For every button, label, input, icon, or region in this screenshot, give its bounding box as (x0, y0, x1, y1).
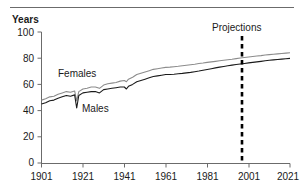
y-tick-label-0: 0 (8, 157, 34, 168)
chart-figure: Years 100 80 60 40 20 0 190 (0, 0, 304, 193)
y-tick-label-40: 40 (8, 105, 34, 116)
x-tick-label-1921: 1921 (72, 171, 94, 182)
x-tick-label-2001: 2001 (238, 171, 260, 182)
y-tick-label-100: 100 (8, 27, 34, 38)
series-label-males: Males (82, 103, 109, 114)
y-tick-label-60: 60 (8, 79, 34, 90)
series-line-males (42, 58, 291, 108)
y-axis-ticks (38, 32, 42, 163)
x-tick-label-2021: 2021 (277, 171, 299, 182)
x-tick-label-1981: 1981 (196, 171, 218, 182)
y-tick-label-20: 20 (8, 131, 34, 142)
x-tick-label-1901: 1901 (30, 171, 52, 182)
y-tick-label-80: 80 (8, 53, 34, 64)
series-label-females: Females (58, 68, 96, 79)
x-tick-label-1941: 1941 (113, 171, 135, 182)
x-tick-label-1961: 1961 (155, 171, 177, 182)
x-axis-ticks (42, 164, 291, 168)
projections-annotation-label: Projections (212, 22, 261, 33)
